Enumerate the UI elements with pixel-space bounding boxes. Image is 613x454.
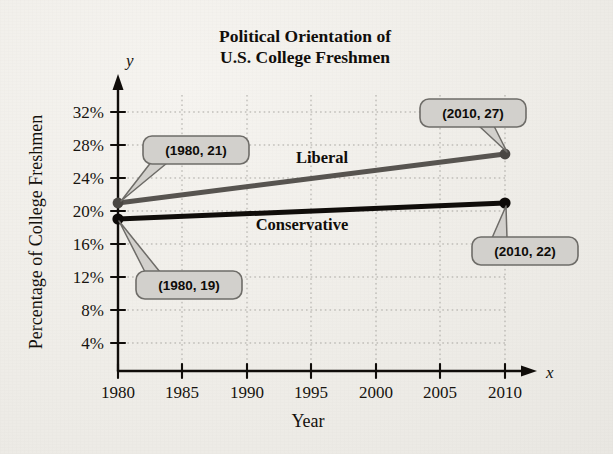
y-tick-label-4: 4%	[81, 334, 104, 353]
x-tick-label-1985: 1985	[165, 383, 199, 402]
y-tick-label-32: 32%	[73, 103, 104, 122]
x-axis	[118, 366, 537, 377]
y-tick-label-20: 20%	[73, 202, 104, 221]
callout-liberal-end-label: (2010, 27)	[442, 106, 504, 121]
y-tick-label-16: 16%	[73, 235, 104, 254]
callout-liberal-end[interactable]: (2010, 27)	[420, 99, 526, 152]
x-tick-label-2005: 2005	[423, 383, 457, 402]
x-axis-variable-label: x	[545, 363, 554, 382]
callout-liberal-start-label: (1980, 21)	[165, 143, 227, 158]
x-tick-label-2000: 2000	[359, 383, 393, 402]
figure-canvas: Political Orientation of U.S. College Fr…	[0, 0, 613, 454]
political-orientation-line-chart: Political Orientation of U.S. College Fr…	[0, 0, 613, 454]
series-label-liberal: Liberal	[296, 148, 349, 167]
callout-conservative-start[interactable]: (1980, 19)	[119, 221, 242, 299]
y-tick-label-12: 12%	[73, 268, 104, 287]
y-tick-label-24: 24%	[73, 169, 104, 188]
y-axis-title: Percentage of College Freshmen	[26, 115, 46, 349]
x-tick-label-1990: 1990	[230, 383, 264, 402]
callout-conservative-start-label: (1980, 19)	[158, 278, 220, 293]
callout-conservative-end-label: (2010, 22)	[494, 244, 556, 259]
y-tick-labels: 32% 28% 24% 20% 16% 12% 8% 4%	[73, 103, 104, 353]
conservative-point-1980	[112, 213, 123, 224]
x-tick-label-1980: 1980	[101, 383, 135, 402]
chart-title-line-1: Political Orientation of	[219, 26, 391, 46]
series-label-conservative: Conservative	[256, 215, 349, 234]
y-tick-label-8: 8%	[81, 301, 104, 320]
x-axis-title: Year	[291, 411, 324, 431]
callout-conservative-end[interactable]: (2010, 22)	[472, 206, 578, 265]
x-tick-label-2010: 2010	[488, 383, 522, 402]
x-tick-labels: 1980 1985 1990 1995 2000 2005 2010	[101, 383, 522, 402]
chart-title-line-2: U.S. College Freshmen	[220, 47, 390, 67]
y-axis-variable-label: y	[124, 51, 134, 70]
y-tick-label-28: 28%	[73, 136, 104, 155]
x-tick-label-1995: 1995	[294, 383, 328, 402]
